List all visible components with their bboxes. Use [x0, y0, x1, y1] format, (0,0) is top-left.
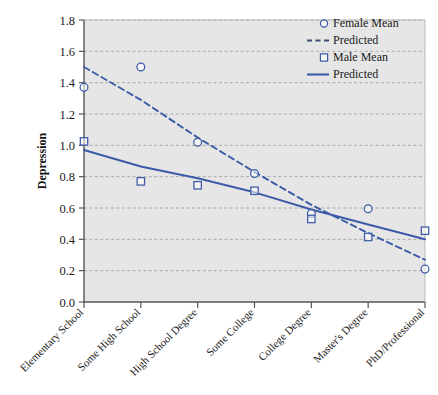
depression-by-education-chart: 0.00.20.40.60.81.01.21.41.61.8 Elementar…: [0, 0, 438, 395]
category-label-6: PhD/Professional: [363, 306, 426, 369]
y-axis-title: Depression: [35, 132, 49, 189]
y-tick-label-1.4: 1.4: [59, 76, 75, 90]
y-tick-label-1.6: 1.6: [59, 45, 75, 59]
marker-female-0: [80, 83, 88, 91]
y-axis-ticks: 0.00.20.40.60.81.01.21.41.61.8: [59, 14, 84, 310]
category-label-4: College Degree: [256, 306, 313, 363]
legend-label-1: Predicted: [333, 33, 378, 47]
chart-figure: 0.00.20.40.60.81.01.21.41.61.8 Elementar…: [0, 0, 438, 395]
y-tick-label-0.6: 0.6: [59, 202, 75, 216]
marker-female-6: [421, 265, 429, 273]
category-label-3: Some College: [204, 306, 256, 358]
y-tick-label-1.8: 1.8: [59, 14, 75, 28]
y-tick-label-1.2: 1.2: [59, 108, 75, 122]
y-tick-label-1.0: 1.0: [59, 139, 75, 153]
marker-male-0: [80, 138, 87, 145]
category-label-5: Master's Degree: [311, 306, 370, 365]
y-tick-label-0.4: 0.4: [59, 233, 75, 247]
marker-male-6: [421, 227, 428, 234]
legend-label-0: Female Mean: [333, 16, 399, 30]
marker-male-1: [137, 178, 144, 185]
y-tick-label-0.0: 0.0: [59, 296, 75, 310]
legend-icon-open-circle: [320, 20, 327, 27]
legend-label-3: Predicted: [333, 67, 378, 81]
y-tick-label-0.2: 0.2: [59, 264, 75, 278]
marker-male-2: [194, 182, 201, 189]
x-axis-ticks: [84, 302, 425, 308]
legend-icon-open-square: [320, 54, 327, 61]
marker-female-3: [251, 170, 259, 178]
marker-female-2: [194, 138, 202, 146]
y-tick-label-0.8: 0.8: [59, 170, 75, 184]
category-labels: Elementary SchoolSome High SchoolHigh Sc…: [18, 306, 427, 378]
marker-female-5: [364, 205, 372, 213]
marker-female-1: [137, 63, 145, 71]
marker-male-4: [308, 215, 315, 222]
marker-male-5: [364, 233, 371, 240]
marker-male-3: [251, 187, 258, 194]
legend-label-2: Male Mean: [333, 50, 388, 64]
